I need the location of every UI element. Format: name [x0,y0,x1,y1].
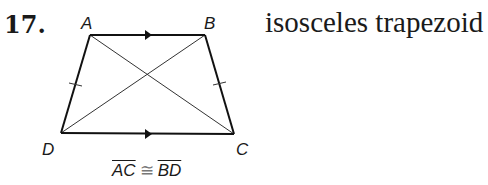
problem-description: isosceles trapezoid [265,6,483,39]
vertex-label-c: C [236,140,249,159]
segment-ac: AC [112,161,136,180]
segment-bd: BD [158,161,182,180]
side-bc [205,35,234,134]
diagonal-ac [90,35,234,134]
parallel-arrow-icon [145,30,152,40]
vertex-label-b: B [204,14,215,33]
vertex-label-d: D [42,140,54,159]
congruence-caption: AC≅BD [112,160,181,181]
diagonal-bd [61,35,205,133]
congruent-symbol: ≅ [140,161,154,180]
parallel-arrow-icon [145,129,152,139]
vertex-label-a: A [80,14,92,33]
